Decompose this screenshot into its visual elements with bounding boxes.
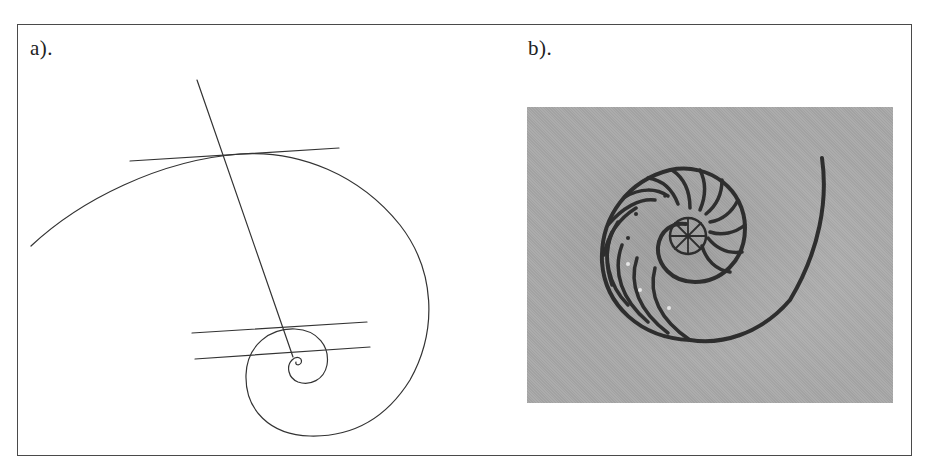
tangent-line-top — [130, 148, 339, 161]
nautilus-shell — [527, 107, 893, 403]
tangent-line-middle — [192, 322, 367, 333]
radial-line — [197, 80, 293, 357]
nautilus-photo — [527, 107, 893, 403]
tangent-line-bottom — [195, 347, 370, 359]
spiral-curve — [31, 154, 429, 436]
